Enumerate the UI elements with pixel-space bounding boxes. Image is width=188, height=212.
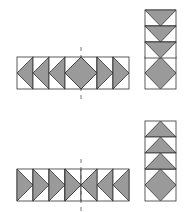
top-figure xyxy=(17,10,176,101)
bottom-figure xyxy=(17,121,176,211)
symmetry-diagram xyxy=(0,0,188,212)
